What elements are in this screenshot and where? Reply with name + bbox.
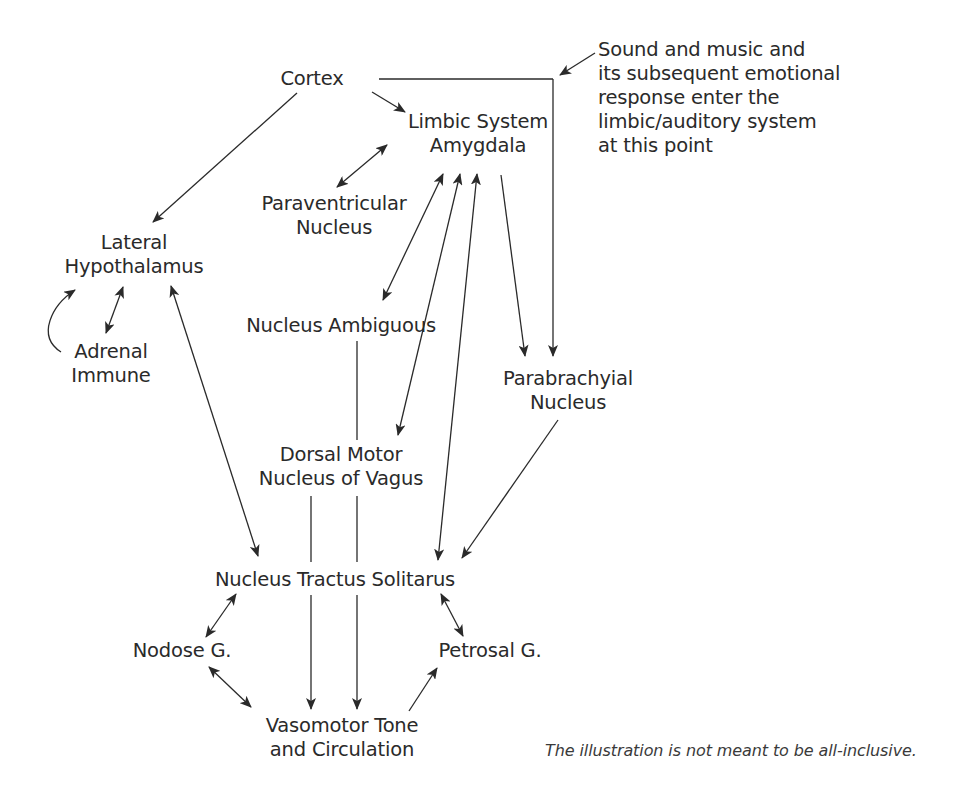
caption-text: The illustration is not meant to be all-… xyxy=(545,741,917,760)
node-vagus-label: Nucleus of Vagus xyxy=(259,467,423,491)
node-petrosal-label: Petrosal G. xyxy=(438,639,541,662)
node-immune-label: Immune xyxy=(71,364,150,388)
node-paraventricular-nucleus: Paraventricular Nucleus xyxy=(261,192,406,240)
amygdala-dorsal-motor-arrow xyxy=(398,174,460,435)
node-lateral-hypothalamus: Lateral Hypothalamus xyxy=(65,231,204,279)
node-vasomotor-label: Vasomotor Tone xyxy=(266,714,419,738)
node-vasomotor-tone: Vasomotor Tone and Circulation xyxy=(266,714,419,762)
node-ambiguous-label: Nucleus Ambiguous xyxy=(246,314,436,337)
node-cortex: Cortex xyxy=(280,67,343,91)
node-limbic-label: Limbic System xyxy=(408,110,548,134)
node-parabrachyial-sublabel: Nucleus xyxy=(503,391,633,415)
annotation-line-5: at this point xyxy=(598,134,840,158)
amygdala-to-parabrachyial-arrow xyxy=(501,175,525,356)
node-nts-label: Nucleus Tractus Solitarus xyxy=(215,568,455,591)
node-lateral-label: Lateral xyxy=(65,231,204,255)
nts-nodose-arrow xyxy=(206,594,236,637)
node-cortex-label: Cortex xyxy=(280,67,343,90)
paraventricular-limbic-arrow xyxy=(337,145,387,187)
node-amygdala-label: Amygdala xyxy=(408,134,548,158)
parabrachyial-to-nts-arrow xyxy=(462,420,558,558)
node-dorsal-label: Dorsal Motor xyxy=(259,443,423,467)
cortex-to-limbic-arrow xyxy=(372,92,405,112)
annotation-line-2: its subsequent emotional xyxy=(598,62,840,86)
node-parabrachyial-nucleus: Parabrachyial Nucleus xyxy=(503,367,633,415)
node-adrenal-immune: Adrenal Immune xyxy=(71,340,150,388)
annotation-sound-music: Sound and music and its subsequent emoti… xyxy=(598,38,840,158)
lateral-adrenal-arrow xyxy=(106,287,123,333)
annotation-line-1: Sound and music and xyxy=(598,38,840,62)
node-circulation-label: and Circulation xyxy=(266,738,419,762)
amygdala-nts-arrow xyxy=(438,174,477,560)
node-dorsal-motor-nucleus: Dorsal Motor Nucleus of Vagus xyxy=(259,443,423,491)
annotation-line-4: limbic/auditory system xyxy=(598,110,840,134)
node-adrenal-label: Adrenal xyxy=(71,340,150,364)
nts-petrosal-arrow xyxy=(441,594,463,636)
node-petrosal-ganglion: Petrosal G. xyxy=(438,639,541,663)
node-nucleus-tractus-solitarus: Nucleus Tractus Solitarus xyxy=(215,568,455,592)
annotation-pointer-arrow xyxy=(560,53,595,75)
caption-disclaimer: The illustration is not meant to be all-… xyxy=(545,741,917,760)
node-paraventricular-label: Paraventricular xyxy=(261,192,406,216)
lateral-hypothalamus-nts-arrow xyxy=(171,286,258,556)
node-nodose-label: Nodose G. xyxy=(133,639,232,662)
node-paraventricular-sublabel: Nucleus xyxy=(261,216,406,240)
vasomotor-to-petrosal-arrow xyxy=(409,668,437,711)
node-limbic-system: Limbic System Amygdala xyxy=(408,110,548,158)
annotation-line-3: response enter the xyxy=(598,86,840,110)
node-nucleus-ambiguous: Nucleus Ambiguous xyxy=(246,314,436,338)
nodose-vasomotor-arrow xyxy=(209,667,251,707)
node-hypothalamus-label: Hypothalamus xyxy=(65,255,204,279)
node-nodose-ganglion: Nodose G. xyxy=(133,639,232,663)
node-parabrachyial-label: Parabrachyial xyxy=(503,367,633,391)
